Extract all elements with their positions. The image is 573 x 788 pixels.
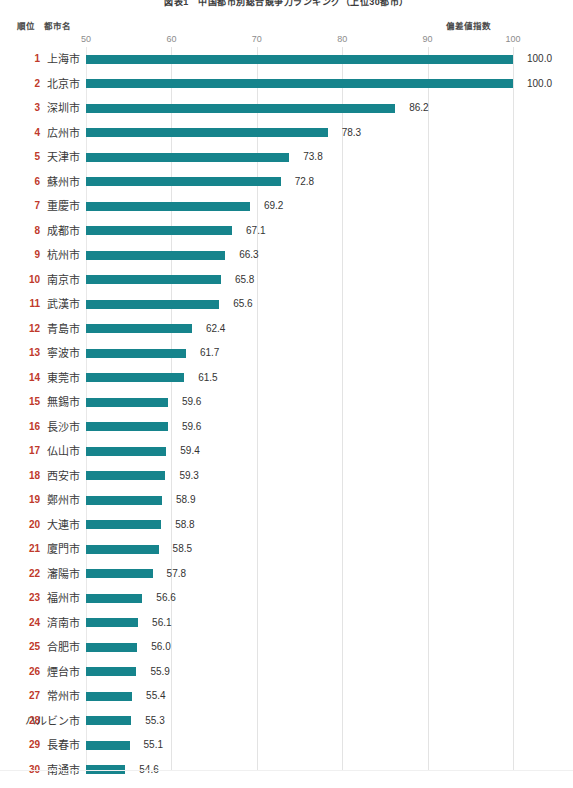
table-row[interactable]: 20大連市58.8 [0,513,573,538]
table-row[interactable]: 29長春市55.1 [0,733,573,758]
row-city-name: 長沙市 [0,415,80,440]
table-row[interactable]: 7重慶市69.2 [0,194,573,219]
table-row[interactable]: 2北京市100.0 [0,72,573,97]
column-header-index: 偏差値指数 [446,19,491,31]
row-bar [86,226,232,235]
row-city-name: 廈門市 [0,537,80,562]
table-row[interactable]: 27常州市55.4 [0,684,573,709]
row-bar [86,422,168,431]
row-city-name: 無錫市 [0,390,80,415]
table-row[interactable]: 28ハルビン市55.3 [0,709,573,734]
table-row[interactable]: 3深圳市86.2 [0,96,573,121]
row-value-label: 69.2 [264,194,283,219]
table-row[interactable]: 21廈門市58.5 [0,537,573,562]
row-bar [86,569,153,578]
table-row[interactable]: 26煙台市55.9 [0,660,573,685]
row-city-name: 北京市 [0,72,80,97]
table-row[interactable]: 6蘇州市72.8 [0,170,573,195]
table-row[interactable]: 9杭州市66.3 [0,243,573,268]
row-bar [86,398,168,407]
row-city-name: 重慶市 [0,194,80,219]
row-city-name: 大連市 [0,513,80,538]
table-row[interactable]: 5天津市73.8 [0,145,573,170]
row-bar [86,618,138,627]
row-value-label: 65.6 [233,292,252,317]
row-city-name: 寧波市 [0,341,80,366]
row-city-name: 仏山市 [0,439,80,464]
row-city-name: 広州市 [0,121,80,146]
table-row[interactable]: 8成都市67.1 [0,219,573,244]
row-bar [86,177,281,186]
row-city-name: 煙台市 [0,660,80,685]
table-row[interactable]: 25合肥市56.0 [0,635,573,660]
row-city-name: 深圳市 [0,96,80,121]
row-bar [86,741,130,750]
table-row[interactable]: 19鄭州市58.9 [0,488,573,513]
table-row[interactable]: 4広州市78.3 [0,121,573,146]
row-value-label: 65.8 [235,268,254,293]
table-row[interactable]: 22瀋陽市57.8 [0,562,573,587]
table-row[interactable]: 11武漢市65.6 [0,292,573,317]
row-city-name: 蘇州市 [0,170,80,195]
table-row[interactable]: 18西安市59.3 [0,464,573,489]
row-value-label: 55.4 [146,684,165,709]
table-row[interactable]: 23福州市56.6 [0,586,573,611]
table-row[interactable]: 16長沙市59.6 [0,415,573,440]
table-row[interactable]: 12青島市62.4 [0,317,573,342]
table-row[interactable]: 15無錫市59.6 [0,390,573,415]
row-city-name: 南京市 [0,268,80,293]
ranking-rows: 1上海市100.02北京市100.03深圳市86.24広州市78.35天津市73… [0,47,573,782]
row-bar [86,300,219,309]
row-value-label: 61.7 [200,341,219,366]
table-row[interactable]: 17仏山市59.4 [0,439,573,464]
table-row[interactable]: 13寧波市61.7 [0,341,573,366]
row-value-label: 56.0 [151,635,170,660]
row-city-name: 東莞市 [0,366,80,391]
row-bar [86,324,192,333]
row-value-label: 58.9 [176,488,195,513]
x-tick-90: 90 [423,34,433,44]
row-value-label: 55.1 [144,733,163,758]
row-city-name: ハルビン市 [0,709,80,734]
row-bar [86,79,513,88]
row-value-label: 67.1 [246,219,265,244]
row-bar [86,202,250,211]
row-bar [86,667,136,676]
row-city-name: 合肥市 [0,635,80,660]
row-value-label: 57.8 [167,562,186,587]
row-city-name: 鄭州市 [0,488,80,513]
row-value-label: 72.8 [295,170,314,195]
row-city-name: 長春市 [0,733,80,758]
row-bar [86,349,186,358]
row-city-name: 天津市 [0,145,80,170]
table-row[interactable]: 10南京市65.8 [0,268,573,293]
x-tick-50: 50 [81,34,91,44]
row-value-label: 58.8 [175,513,194,538]
table-row[interactable]: 24済南市56.1 [0,611,573,636]
row-value-label: 58.5 [173,537,192,562]
row-city-name: 済南市 [0,611,80,636]
row-city-name: 上海市 [0,47,80,72]
row-value-label: 55.9 [150,660,169,685]
row-bar [86,55,513,64]
row-value-label: 59.6 [182,390,201,415]
row-city-name: 瀋陽市 [0,562,80,587]
row-bar [86,373,184,382]
x-tick-60: 60 [166,34,176,44]
row-bar [86,104,395,113]
row-city-name: 西安市 [0,464,80,489]
row-bar [86,447,166,456]
row-city-name: 武漢市 [0,292,80,317]
ranking-bar-chart: 図表1 中国都市別総合競争力ランキング（上位30都市） 順位 都市名 偏差値指数… [0,0,573,788]
table-row[interactable]: 1上海市100.0 [0,47,573,72]
row-bar [86,471,165,480]
row-value-label: 100.0 [527,47,552,72]
x-tick-80: 80 [337,34,347,44]
x-axis-tick-labels: 5060708090100 [0,34,573,47]
table-row[interactable]: 14東莞市61.5 [0,366,573,391]
column-header-city: 都市名 [44,19,71,31]
row-city-name: 福州市 [0,586,80,611]
row-value-label: 62.4 [206,317,225,342]
row-bar [86,716,131,725]
x-tick-70: 70 [252,34,262,44]
